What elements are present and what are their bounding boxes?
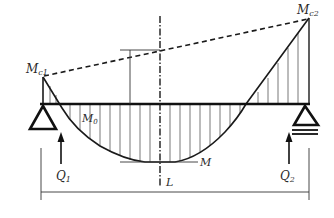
label-q1: Q1: [56, 169, 71, 184]
moment-curve: [43, 18, 309, 162]
beam-moment-diagram: Mc1 Mc2 M0 M Q1 Q2 L: [0, 0, 334, 218]
reaction-q1-arrow: [58, 132, 65, 164]
left-pin-support: [30, 106, 56, 129]
label-m: M: [199, 156, 212, 169]
midspan-ordinate-marker: [120, 50, 160, 104]
label-span-l: L: [165, 176, 173, 189]
span-dimension-line: [41, 148, 309, 200]
closing-line-dashed: [44, 19, 308, 76]
reaction-q2-arrow: [286, 132, 293, 164]
label-q2: Q2: [280, 169, 295, 184]
label-m0: M0: [81, 112, 98, 126]
label-mc2: Mc2: [296, 3, 319, 18]
hatch-sagging-region: [70, 104, 240, 162]
label-mc1: Mc1: [25, 62, 48, 77]
right-roller-support: [292, 106, 318, 134]
hatch-right-hogging: [258, 33, 298, 104]
